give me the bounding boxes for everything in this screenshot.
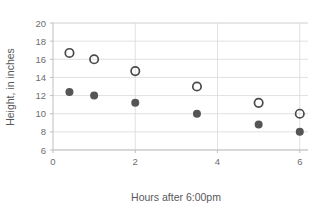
y-tick-label: 10 [35,108,46,119]
y-tick-label: 18 [35,36,46,47]
data-point-filled-circles [255,121,263,129]
y-tick-label: 6 [41,145,46,156]
x-axis-title: Hours after 6:00pm [131,191,221,203]
y-tick-label: 14 [35,72,46,83]
data-point-filled-circles [65,88,73,96]
y-tick-label: 20 [35,18,46,29]
y-axis-title: Height, in inches [4,48,16,126]
scatter-chart: 68101214161820 0246 Hours after 6:00pm H… [0,0,320,209]
x-tick-label: 0 [50,156,55,167]
data-points [65,49,304,136]
chart-canvas: 68101214161820 0246 Hours after 6:00pm H… [0,0,320,209]
x-tick-label: 2 [133,156,138,167]
data-point-open-circles [254,99,262,107]
data-point-filled-circles [90,92,98,100]
y-tick-label: 12 [35,90,46,101]
y-axis-ticks: 68101214161820 [35,18,53,156]
data-point-filled-circles [131,99,139,107]
gridlines [53,23,308,150]
data-point-filled-circles [193,110,201,118]
x-axis-ticks: 0246 [50,150,302,167]
data-point-filled-circles [296,128,304,136]
y-tick-label: 16 [35,54,46,65]
data-point-open-circles [193,82,201,90]
data-point-open-circles [65,49,73,57]
axes [53,23,308,150]
y-tick-label: 8 [41,126,46,137]
x-tick-label: 6 [297,156,302,167]
x-tick-label: 4 [215,156,220,167]
